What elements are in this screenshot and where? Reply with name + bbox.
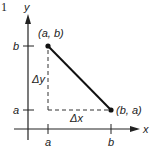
delta-y-label: Δy	[31, 73, 46, 85]
y-tick-label-a: a	[13, 104, 19, 116]
y-tick-label-b: b	[13, 40, 19, 52]
point-a-b	[45, 43, 50, 48]
x-axis-arrow-icon	[130, 126, 140, 132]
segment	[48, 46, 111, 110]
x-tick-label-a: a	[45, 136, 51, 148]
point-label-a-b: (a, b)	[38, 27, 64, 39]
y-axis-arrow-icon	[25, 14, 31, 24]
figure: 1 y x b a a b Δy Δx (a, b) (b, a)	[0, 0, 160, 148]
x-axis-label: x	[142, 123, 149, 135]
x-tick-label-b: b	[108, 136, 114, 148]
delta-x-label: Δx	[69, 112, 83, 124]
point-b-a	[108, 107, 113, 112]
point-label-b-a: (b, a)	[116, 104, 142, 116]
figure-number: 1	[1, 0, 7, 14]
y-axis-label: y	[23, 1, 31, 13]
